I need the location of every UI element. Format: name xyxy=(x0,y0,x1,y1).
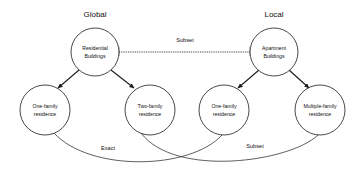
edge-exact-curve xyxy=(54,133,222,162)
node-one-family-residence-local[interactable]: One-family residence xyxy=(199,85,249,135)
node-circle-apartment-buildings[interactable] xyxy=(250,28,298,76)
node-label-one-family-residence-local-line2: residence xyxy=(213,111,236,117)
node-label-apartment-buildings-line1: Apartment xyxy=(262,45,286,51)
edge-apartment-to-multiple-family xyxy=(289,70,309,88)
node-circle-two-family-residence-global[interactable] xyxy=(125,85,175,135)
node-residential-buildings[interactable]: Residential Buildings xyxy=(71,28,119,76)
edge-label-subset-top: Subset xyxy=(176,37,194,43)
edge-residential-to-one-family xyxy=(58,70,79,88)
edge-label-subset-curve: Subset xyxy=(246,143,264,149)
node-label-residential-buildings-line2: Buildings xyxy=(84,53,105,59)
node-label-one-family-residence-global-line2: residence xyxy=(34,111,57,117)
node-multiple-family-residence-local[interactable]: Multiple-family residence xyxy=(295,85,345,135)
node-label-multiple-family-residence-local-line1: Multiple-family xyxy=(303,103,337,109)
node-label-multiple-family-residence-local-line2: residence xyxy=(309,111,332,117)
edge-apartment-to-one-family xyxy=(238,70,259,88)
node-label-one-family-residence-local-line1: One-family xyxy=(211,103,236,109)
edge-residential-to-two-family xyxy=(111,70,134,88)
edge-label-exact: Exact xyxy=(101,145,115,151)
diagram-canvas: Global Local Subset Exact Subset Residen… xyxy=(0,0,363,170)
node-apartment-buildings[interactable]: Apartment Buildings xyxy=(250,28,298,76)
node-two-family-residence-global[interactable]: Two-family residence xyxy=(125,85,175,135)
node-label-two-family-residence-global-line2: residence xyxy=(139,111,162,117)
node-label-two-family-residence-global-line1: Two-family xyxy=(138,103,163,109)
group-label-global: Global xyxy=(83,10,106,19)
node-label-residential-buildings-line1: Residential xyxy=(82,45,108,51)
diagram-container: Global Local Subset Exact Subset Residen… xyxy=(0,0,363,170)
node-circle-multiple-family-residence-local[interactable] xyxy=(295,85,345,135)
node-label-apartment-buildings-line2: Buildings xyxy=(263,53,284,59)
node-circle-one-family-residence-global[interactable] xyxy=(20,85,70,135)
node-circle-residential-buildings[interactable] xyxy=(71,28,119,76)
node-one-family-residence-global[interactable]: One-family residence xyxy=(20,85,70,135)
node-label-one-family-residence-global-line1: One-family xyxy=(32,103,57,109)
node-circle-one-family-residence-local[interactable] xyxy=(199,85,249,135)
edge-subset-curve xyxy=(141,133,318,161)
group-label-local: Local xyxy=(264,10,283,19)
